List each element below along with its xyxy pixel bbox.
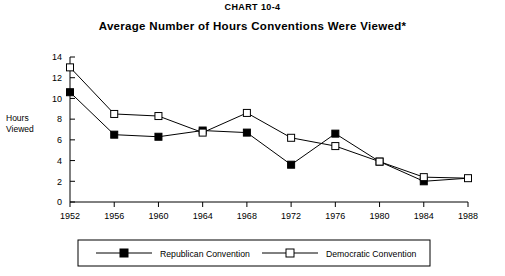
data-point-marker (243, 129, 250, 136)
plot-area: 02468101214 1952195619601964196819721976… (0, 0, 505, 276)
data-point-marker (288, 134, 295, 141)
x-tick-label: 1968 (237, 211, 257, 221)
x-tick-label: 1984 (414, 211, 434, 221)
x-tick-label: 1964 (193, 211, 213, 221)
x-tick-label: 1988 (458, 211, 478, 221)
data-point-marker (332, 143, 339, 150)
data-point-marker (243, 109, 250, 116)
x-tick-label: 1952 (60, 211, 80, 221)
data-point-marker (288, 161, 295, 168)
data-point-marker (332, 130, 339, 137)
y-axis-ticks: 02468101214 (52, 52, 75, 207)
data-point-marker (155, 113, 162, 120)
legend-democratic-label: Democratic Convention (326, 249, 416, 259)
x-tick-label: 1980 (370, 211, 390, 221)
data-point-marker (155, 133, 162, 140)
chart-legend: Republican Convention Democratic Convent… (78, 240, 430, 266)
data-point-marker (67, 64, 74, 71)
y-tick-label: 14 (52, 52, 62, 62)
y-tick-label: 2 (57, 177, 62, 187)
data-point-marker (420, 174, 427, 181)
x-tick-label: 1972 (281, 211, 301, 221)
y-tick-label: 10 (52, 94, 62, 104)
legend-democratic-marker (286, 249, 294, 257)
data-point-marker (111, 110, 118, 117)
legend-republican-label: Republican Convention (160, 249, 250, 259)
series-line (70, 67, 468, 178)
y-tick-label: 4 (57, 156, 62, 166)
data-point-marker (67, 89, 74, 96)
y-tick-label: 6 (57, 135, 62, 145)
x-tick-label: 1956 (104, 211, 124, 221)
x-tick-label: 1976 (325, 211, 345, 221)
x-tick-label: 1960 (148, 211, 168, 221)
y-tick-label: 8 (57, 114, 62, 124)
chart-figure: CHART 10-4 Average Number of Hours Conve… (0, 0, 505, 276)
data-point-marker (465, 175, 472, 182)
x-axis-ticks: 1952195619601964196819721976198019841988 (60, 202, 478, 221)
data-series-markers (67, 64, 472, 185)
y-tick-label: 0 (57, 197, 62, 207)
data-point-marker (111, 131, 118, 138)
series-line (70, 92, 468, 181)
data-series-lines (70, 67, 468, 181)
data-point-marker (376, 158, 383, 165)
data-point-marker (199, 129, 206, 136)
y-tick-label: 12 (52, 73, 62, 83)
legend-republican-marker (120, 249, 128, 257)
